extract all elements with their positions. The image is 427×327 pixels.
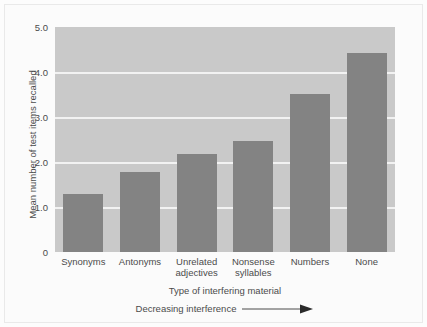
figure-container: Mean number of test items recalled 5.0 4…: [0, 0, 427, 327]
x-tick-label-line: Nonsense: [225, 256, 281, 267]
x-tick-label: Synonyms: [55, 256, 111, 278]
x-tick-label: None: [339, 256, 395, 278]
x-tick-label: Nonsensesyllables: [225, 256, 281, 278]
plot-area: [55, 27, 395, 252]
x-tick-label-line: adjectives: [169, 267, 225, 278]
bar[interactable]: [290, 94, 330, 252]
bar[interactable]: [120, 172, 160, 252]
y-axis-title: Mean number of test items recalled: [27, 50, 38, 240]
x-tick-label: Antonyms: [112, 256, 168, 278]
annotation-label: Decreasing interference: [136, 303, 237, 314]
x-tick-label: Numbers: [282, 256, 338, 278]
x-tick-label-line: Antonyms: [112, 256, 168, 267]
x-tick-label: Unrelatedadjectives: [169, 256, 225, 278]
x-axis-ticks: SynonymsAntonymsUnrelatedadjectivesNonse…: [55, 256, 395, 278]
bar[interactable]: [347, 53, 387, 252]
x-tick-label-line: Synonyms: [55, 256, 111, 267]
bar-series: [55, 27, 395, 252]
bar[interactable]: [63, 194, 103, 252]
x-tick-label-line: Numbers: [282, 256, 338, 267]
annotation-group: Decreasing interference: [55, 303, 395, 314]
x-tick-label-line: Unrelated: [169, 256, 225, 267]
x-tick-label-line: None: [339, 256, 395, 267]
bar[interactable]: [177, 154, 217, 252]
bar[interactable]: [233, 141, 273, 252]
x-tick-label-line: syllables: [225, 267, 281, 278]
x-axis-title: Type of interfering material: [55, 285, 395, 296]
right-arrow-icon: [242, 304, 314, 314]
